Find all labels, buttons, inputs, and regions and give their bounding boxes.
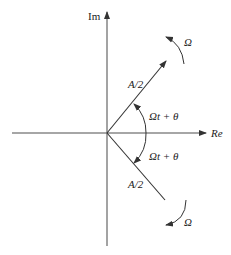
upper-rotation-arrow: [166, 37, 184, 64]
re-axis-label: Re: [210, 127, 223, 139]
lower-angle-label: Ωt + θ: [149, 150, 179, 162]
upper-phasor-arrow: [107, 61, 166, 133]
lower-angle-arc: [134, 133, 146, 163]
im-axis-label: Im: [88, 10, 101, 22]
upper-rotation-label: Ω: [184, 36, 192, 48]
phasor-diagram: Im Re A/2 A/2 Ωt + θ Ωt + θ Ω Ω: [0, 0, 231, 255]
lower-magnitude-label: A/2: [127, 178, 144, 190]
lower-rotation-arrow: [166, 200, 186, 225]
upper-angle-label: Ωt + θ: [149, 110, 179, 122]
upper-angle-arc: [134, 104, 146, 133]
upper-magnitude-label: A/2: [127, 78, 144, 90]
lower-rotation-label: Ω: [184, 216, 192, 228]
